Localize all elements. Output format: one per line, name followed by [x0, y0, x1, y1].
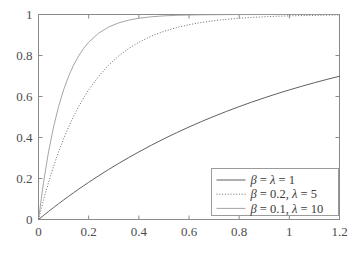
x-tick-label-6: 1.2 — [331, 224, 347, 239]
x-tick-label-4: 0.8 — [231, 224, 247, 239]
y-tick-label-1: 0.2 — [16, 171, 32, 186]
y-tick-label-4: 0.8 — [16, 48, 32, 63]
x-tick-label-5: 1 — [286, 224, 293, 239]
legend[interactable]: β = λ = 1β = 0.2, λ = 5β = 0.1, λ = 10 — [212, 169, 339, 216]
y-tick-label-2: 0.4 — [16, 130, 33, 145]
line-chart: 00.20.40.60.811.2 00.20.40.60.81 β = λ =… — [0, 0, 363, 256]
y-tick-label-0: 0 — [26, 212, 33, 227]
x-tick-label-2: 0.4 — [131, 224, 148, 239]
x-tick-label-0: 0 — [35, 224, 42, 239]
y-tick-label-5: 1 — [26, 7, 33, 22]
legend-label-2: β = 0.1, λ = 10 — [250, 202, 324, 216]
figure-canvas: 00.20.40.60.811.2 00.20.40.60.81 β = λ =… — [0, 0, 363, 256]
legend-label-0: β = λ = 1 — [250, 173, 296, 187]
y-tick-label-3: 0.6 — [16, 89, 33, 104]
x-tick-label-1: 0.2 — [81, 224, 97, 239]
legend-label-1: β = 0.2, λ = 5 — [250, 187, 317, 201]
x-tick-label-3: 0.6 — [181, 224, 198, 239]
